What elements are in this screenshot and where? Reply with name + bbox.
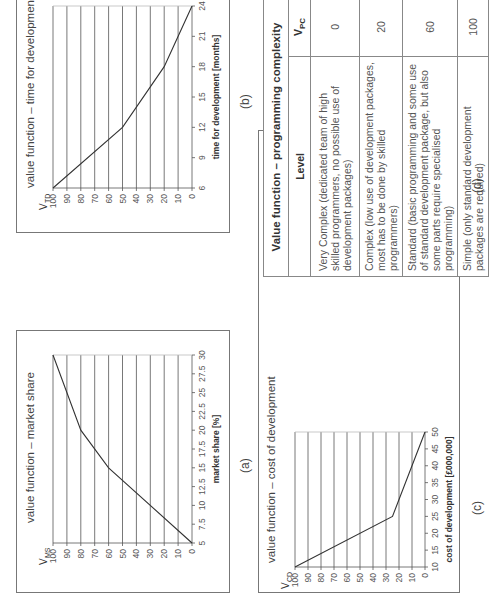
svg-text:15: 15 (197, 92, 207, 102)
svg-text:30: 30 (145, 549, 155, 559)
table-row: Standard (basic programming and some use… (403, 0, 458, 277)
svg-text:20: 20 (197, 425, 207, 435)
svg-text:22.5: 22.5 (197, 403, 207, 420)
svg-text:70: 70 (90, 194, 100, 204)
svg-text:24: 24 (197, 1, 207, 11)
svg-text:10: 10 (197, 500, 207, 510)
svg-text:V: V (38, 558, 49, 565)
svg-text:time for development [months]: time for development [months] (211, 35, 221, 160)
svg-text:30: 30 (197, 350, 207, 360)
svg-text:20: 20 (159, 194, 169, 204)
svg-text:90: 90 (303, 573, 313, 583)
panel-a-label: (a) (238, 458, 252, 473)
svg-text:60: 60 (342, 573, 352, 583)
level-cell: Complex (low use of development packages… (360, 56, 403, 276)
svg-text:21: 21 (197, 31, 207, 41)
svg-text:25: 25 (197, 388, 207, 398)
panel-c-label: (c) (470, 501, 484, 515)
svg-text:CD: CD (286, 572, 293, 582)
svg-text:10: 10 (407, 573, 417, 583)
svg-text:0: 0 (187, 549, 197, 554)
svg-text:20: 20 (394, 573, 404, 583)
svg-text:0: 0 (187, 194, 197, 199)
svg-text:27.5: 27.5 (197, 365, 207, 382)
svg-text:12.5: 12.5 (197, 478, 207, 495)
svg-text:TD: TD (44, 194, 51, 203)
svg-text:90: 90 (62, 194, 72, 204)
panel-b-label: (b) (238, 94, 252, 109)
svg-text:15: 15 (430, 545, 440, 555)
svg-text:80: 80 (76, 194, 86, 204)
svg-text:70: 70 (329, 573, 339, 583)
svg-text:40: 40 (430, 461, 440, 471)
level-cell: Standard (basic programming and some use… (403, 56, 458, 276)
svg-text:V: V (38, 203, 49, 210)
table-title: Value function – programming complexity (264, 0, 289, 277)
svg-text:50: 50 (430, 427, 440, 437)
svg-text:20: 20 (430, 528, 440, 538)
svg-text:40: 40 (131, 194, 141, 204)
svg-text:45: 45 (430, 444, 440, 454)
svg-text:17.5: 17.5 (197, 440, 207, 457)
svg-text:30: 30 (145, 194, 155, 204)
chart-time-for-development: 0102030405060708090100691215182124time f… (16, 0, 230, 233)
svg-text:cost of development [£000,000]: cost of development [£000,000] (444, 436, 454, 562)
column-header-value: VPC (289, 0, 311, 56)
svg-text:12: 12 (197, 122, 207, 132)
table-row: Simple (only standard development packag… (458, 0, 489, 277)
svg-text:18: 18 (197, 62, 207, 72)
svg-text:10: 10 (173, 194, 183, 204)
svg-text:market share [%]: market share [%] (211, 415, 221, 484)
svg-text:40: 40 (131, 549, 141, 559)
figure-canvas: value function – market share 0102030405… (0, 0, 504, 593)
chart-market-share: 010203040506070809010057.51012.51517.520… (16, 330, 230, 593)
svg-text:30: 30 (430, 495, 440, 505)
svg-text:90: 90 (62, 549, 72, 559)
value-cell: 100 (458, 0, 489, 56)
svg-text:7.5: 7.5 (197, 518, 207, 530)
svg-text:15: 15 (197, 463, 207, 473)
programming-complexity-table: Value function – programming complexity … (263, 0, 489, 277)
panel-d-label: (d) (470, 178, 484, 193)
column-header-level: Level (289, 56, 311, 276)
svg-text:50: 50 (118, 194, 128, 204)
svg-text:20: 20 (159, 549, 169, 559)
svg-text:80: 80 (76, 549, 86, 559)
svg-text:6: 6 (197, 185, 207, 190)
svg-text:10: 10 (430, 562, 440, 572)
svg-text:9: 9 (197, 155, 207, 160)
svg-text:60: 60 (104, 194, 114, 204)
svg-text:80: 80 (316, 573, 326, 583)
level-cell: Very Complex (dedicated team of high ski… (311, 56, 360, 276)
level-cell: Simple (only standard development packag… (458, 56, 489, 276)
svg-text:50: 50 (118, 549, 128, 559)
svg-text:40: 40 (368, 573, 378, 583)
table-row: Very Complex (dedicated team of high ski… (311, 0, 360, 277)
svg-text:60: 60 (104, 549, 114, 559)
svg-text:MS: MS (44, 547, 51, 558)
table-row: Complex (low use of development packages… (360, 0, 403, 277)
svg-text:50: 50 (355, 573, 365, 583)
svg-text:35: 35 (430, 478, 440, 488)
svg-text:30: 30 (381, 573, 391, 583)
svg-text:25: 25 (430, 511, 440, 521)
svg-text:10: 10 (173, 549, 183, 559)
value-cell: 0 (311, 0, 360, 56)
svg-text:70: 70 (90, 549, 100, 559)
svg-text:5: 5 (197, 540, 207, 545)
svg-text:0: 0 (420, 573, 430, 578)
value-cell: 20 (360, 0, 403, 56)
svg-text:V: V (280, 582, 291, 589)
value-cell: 60 (403, 0, 458, 56)
